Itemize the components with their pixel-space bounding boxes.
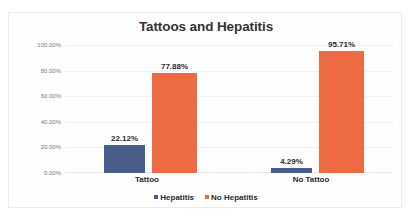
bar-group-no-tattoo: 4.29% 95.71% (229, 45, 393, 173)
y-axis-tick-label: 40.00% (17, 119, 61, 125)
y-axis-tick-label: 60.00% (17, 93, 61, 99)
legend-item-hepatitis[interactable]: Hepatitis (154, 193, 194, 202)
bar-value-label: 77.88% (161, 62, 188, 71)
legend-item-no-hepatitis[interactable]: No Hepatitis (205, 193, 258, 202)
y-axis-tick-label: 80.00% (17, 68, 61, 74)
legend-label: Hepatitis (160, 193, 194, 202)
y-axis-tick-label: 20.00% (17, 144, 61, 150)
bar-tattoo-hepatitis[interactable] (104, 145, 145, 173)
x-axis: Tattoo No Tattoo (65, 175, 393, 189)
legend-swatch-icon (205, 195, 209, 199)
bar-tattoo-no-hepatitis[interactable] (152, 73, 197, 173)
bar-no-tattoo-hepatitis[interactable] (271, 168, 312, 173)
y-axis-tick-label: 100.00% (17, 42, 61, 48)
bar-value-label: 95.71% (328, 40, 355, 49)
bar-group-tattoo: 22.12% 77.88% (65, 45, 229, 173)
bar-value-label: 4.29% (280, 157, 303, 166)
legend-label: No Hepatitis (211, 193, 258, 202)
bar-no-tattoo-no-hepatitis[interactable] (319, 51, 364, 174)
y-axis-tick-label: 0.00% (17, 170, 61, 176)
bar-value-label: 22.12% (111, 134, 138, 143)
x-axis-category-tattoo: Tattoo (135, 175, 159, 184)
y-axis: 100.00% 80.00% 60.00% 40.00% 20.00% 0.00… (17, 45, 61, 173)
x-axis-category-no-tattoo: No Tattoo (293, 175, 330, 184)
legend-swatch-icon (154, 195, 158, 199)
chart-container: Tattoos and Hepatitis 100.00% 80.00% 60.… (8, 12, 402, 208)
chart-legend: Hepatitis No Hepatitis (9, 193, 403, 202)
chart-title: Tattoos and Hepatitis (9, 19, 403, 34)
plot-area: 22.12% 77.88% 4.29% 95.71% (65, 45, 393, 173)
